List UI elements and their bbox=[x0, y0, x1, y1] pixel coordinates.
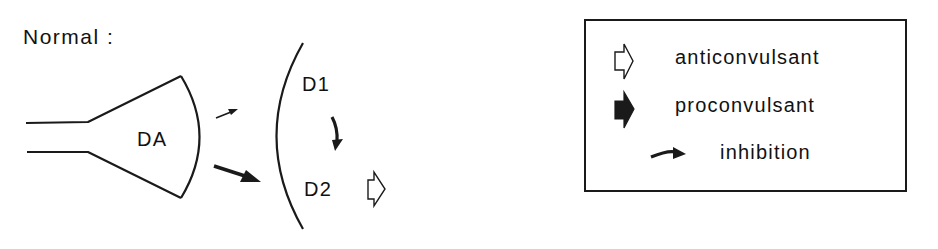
thick-arrow-icon bbox=[214, 166, 261, 182]
inhibition-arrow-icon bbox=[332, 117, 343, 151]
postsynaptic-membrane bbox=[277, 43, 304, 229]
legend-label-proconvulsant: proconvulsant bbox=[675, 95, 815, 115]
d2-label: D2 bbox=[304, 179, 332, 199]
legend-label-inhibition: inhibition bbox=[720, 142, 811, 162]
legend-label-anticonvulsant: anticonvulsant bbox=[675, 47, 820, 67]
da-label: DA bbox=[137, 129, 167, 149]
d1-label: D1 bbox=[302, 74, 330, 94]
anticonvulsant-arrow-icon bbox=[368, 172, 385, 206]
presynaptic-terminal bbox=[26, 76, 200, 198]
thin-arrow-icon bbox=[216, 109, 238, 118]
